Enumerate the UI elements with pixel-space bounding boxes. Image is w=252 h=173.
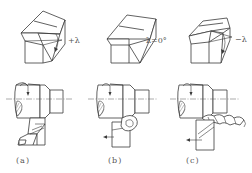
panel-a: +λ (a) [0, 0, 84, 173]
workpiece-a-icon [6, 83, 72, 118]
panel-c-drawing [168, 0, 252, 173]
panel-b: λ=0° (b) [84, 0, 168, 173]
panel-a-drawing [0, 0, 84, 173]
caption-b: (b) [108, 157, 122, 165]
figure-canvas: +λ (a) [0, 0, 252, 173]
cutting-tool-a-icon [18, 118, 45, 145]
tool-block-positive-icon [21, 11, 65, 63]
tool-block-negative-icon [189, 18, 232, 63]
angle-label-negative: −λ [235, 36, 247, 44]
cutting-tool-c-icon [186, 120, 214, 150]
workpiece-b-icon [88, 84, 158, 119]
angle-label-positive: +λ [68, 37, 80, 45]
caption-c: (c) [186, 157, 200, 165]
caption-a: (a) [16, 157, 30, 165]
cutting-tool-b-icon [103, 116, 137, 148]
panel-c: −λ (c) [168, 0, 252, 173]
workpiece-c-icon [170, 84, 240, 119]
angle-label-zero: λ=0° [146, 37, 167, 45]
panel-b-drawing [84, 0, 168, 173]
